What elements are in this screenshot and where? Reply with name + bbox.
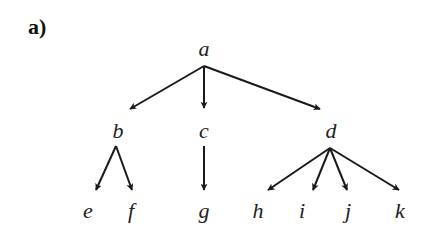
arrow-a-to-b bbox=[130, 66, 204, 109]
node-g: g bbox=[199, 198, 210, 223]
arrow-d-to-k bbox=[330, 148, 399, 190]
node-a: a bbox=[199, 36, 210, 61]
nodes-group: abcdefghijk bbox=[83, 36, 406, 223]
arrow-b-to-f bbox=[116, 146, 132, 190]
node-b: b bbox=[113, 118, 124, 143]
node-k: k bbox=[395, 198, 406, 223]
node-h: h bbox=[253, 198, 264, 223]
node-i: i bbox=[299, 198, 305, 223]
arrow-a-to-d bbox=[204, 66, 320, 109]
node-f: f bbox=[128, 198, 137, 223]
tree-svg: a) abcdefghijk bbox=[0, 0, 428, 235]
tree-diagram: a) abcdefghijk bbox=[0, 0, 428, 235]
node-c: c bbox=[199, 118, 209, 143]
node-j: j bbox=[342, 198, 351, 223]
node-e: e bbox=[83, 198, 93, 223]
node-d: d bbox=[326, 118, 338, 143]
arrow-b-to-e bbox=[96, 146, 116, 190]
edges-group bbox=[96, 66, 399, 190]
panel-label: a) bbox=[28, 14, 46, 39]
